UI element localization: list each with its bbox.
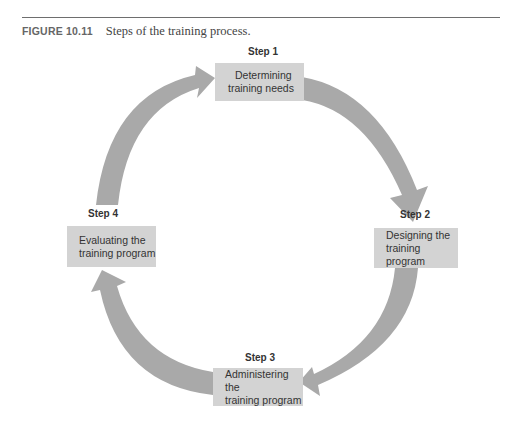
step-4-box: Evaluating the training program bbox=[67, 226, 156, 267]
step-1-text-line2: training needs bbox=[223, 82, 294, 95]
step-3-text-line2: training program bbox=[221, 394, 303, 407]
arrow-step3-to-step4 bbox=[91, 270, 213, 395]
step-4-label: Step 4 bbox=[88, 208, 118, 219]
step-2-text-line1: Designing the bbox=[382, 229, 458, 242]
step-3-box: Administering the training program bbox=[213, 368, 303, 406]
step-3-text-line1: Administering the bbox=[221, 368, 303, 394]
step-3-label: Step 3 bbox=[245, 352, 275, 363]
step-1-text-line1: Determining bbox=[223, 69, 294, 82]
arrow-step2-to-step3 bbox=[299, 268, 418, 396]
step-1-label: Step 1 bbox=[248, 46, 278, 57]
step-1-box: Determining training needs bbox=[215, 63, 304, 101]
arrow-step1-to-step2 bbox=[302, 77, 428, 222]
step-4-text-line1: Evaluating the bbox=[75, 234, 155, 247]
step-4-text-line2: training program bbox=[75, 247, 155, 260]
step-2-box: Designing the training program bbox=[374, 228, 458, 268]
arrow-step4-to-step1 bbox=[96, 66, 215, 205]
step-2-label: Step 2 bbox=[400, 209, 430, 220]
step-2-text-line2: training program bbox=[382, 242, 458, 268]
